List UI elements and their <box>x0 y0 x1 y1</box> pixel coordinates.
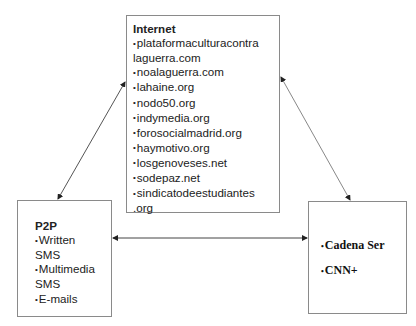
bullet-icon: • <box>35 265 38 274</box>
bullet-icon: • <box>133 143 136 152</box>
internet-node: Internet •plataformaculturacontra laguer… <box>126 15 280 213</box>
bullet-icon: • <box>133 68 136 77</box>
bullet-icon: • <box>321 267 324 276</box>
p2p-item-cont: SMS <box>35 277 111 291</box>
p2p-node: P2P •Written SMS •Multimedia SMS •E-mail… <box>17 200 112 317</box>
arrow-internet-p2p <box>58 82 125 199</box>
internet-item: •plataformaculturacontra <box>133 36 279 51</box>
media-item: •CNN+ <box>321 263 406 278</box>
internet-item: •haymotivo.org <box>133 141 279 156</box>
media-item: •Cadena Ser <box>321 238 406 253</box>
arrow-internet-media <box>281 77 350 200</box>
bullet-icon: • <box>133 158 136 167</box>
internet-item: •sindicatodeestudiantes <box>133 186 279 201</box>
internet-item: •losgenoveses.net <box>133 156 279 171</box>
internet-item-cont: laguerra.com <box>133 51 279 65</box>
internet-item: •forosocialmadrid.org <box>133 126 279 141</box>
bullet-icon: • <box>321 242 324 251</box>
internet-item: •nodo50.org <box>133 96 279 111</box>
bullet-icon: • <box>133 189 136 198</box>
internet-item: •indymedia.org <box>133 111 279 126</box>
bullet-icon: • <box>133 39 136 48</box>
media-node: •Cadena Ser •CNN+ <box>308 201 407 314</box>
p2p-item: •Multimedia <box>35 262 111 277</box>
bullet-icon: • <box>35 236 38 245</box>
internet-item: •lahaine.org <box>133 80 279 95</box>
bullet-icon: • <box>133 128 136 137</box>
p2p-item-cont: SMS <box>35 248 111 262</box>
p2p-item: •E-mails <box>35 292 111 307</box>
bullet-icon: • <box>133 113 136 122</box>
bullet-icon: • <box>133 83 136 92</box>
bullet-icon: • <box>133 173 136 182</box>
p2p-item: •Written <box>35 233 111 248</box>
internet-title: Internet <box>133 22 279 36</box>
bullet-icon: • <box>133 98 136 107</box>
internet-item: •noalaguerra.com <box>133 65 279 80</box>
internet-item: •sodepaz.net <box>133 171 279 186</box>
internet-item-cont: .org <box>133 201 279 215</box>
bullet-icon: • <box>35 295 38 304</box>
p2p-title: P2P <box>35 219 111 233</box>
